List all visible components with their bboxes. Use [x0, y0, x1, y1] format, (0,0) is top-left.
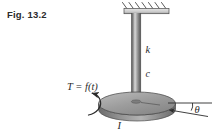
torsional-system-diagram: k c I T = f(t) θ — [0, 0, 215, 133]
inertia-label: I — [117, 120, 122, 131]
shaft-body — [132, 13, 141, 101]
figure-container: Fig. 13.2 — [0, 0, 215, 133]
torque-label: T = f(t) — [67, 81, 98, 93]
angle-indicator-arrow — [170, 110, 209, 117]
rotating-disk — [99, 92, 176, 121]
angle-arc — [191, 103, 193, 111]
shaft-base-joint — [131, 100, 140, 103]
support-hatching — [123, 3, 166, 9]
angle-label: θ — [195, 104, 200, 115]
shaft-cylinder — [132, 13, 141, 101]
ceiling-support-icon — [123, 3, 170, 14]
support-bar — [124, 9, 169, 14]
stiffness-label: k — [146, 44, 151, 55]
damping-label: c — [146, 68, 151, 79]
